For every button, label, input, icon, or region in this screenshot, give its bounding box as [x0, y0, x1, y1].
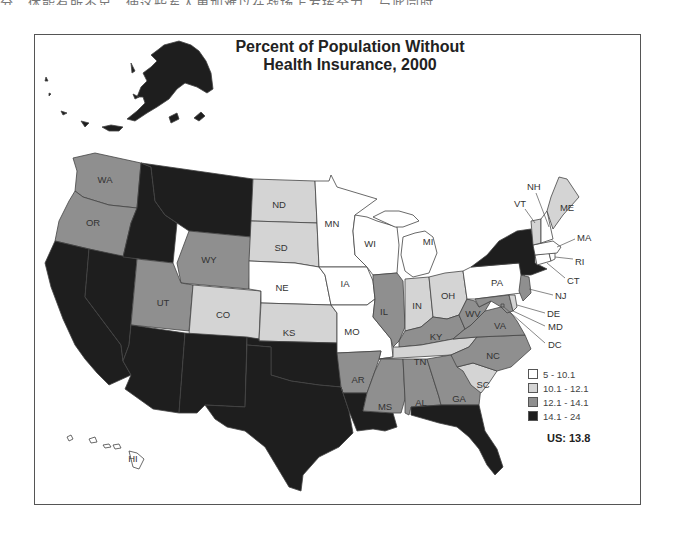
label-wa: WA [98, 174, 114, 185]
label-sc: SC [476, 379, 489, 390]
legend-swatch [528, 383, 538, 393]
label-ct: CT [567, 275, 580, 286]
legend-label: 12.1 - 14.1 [543, 397, 588, 408]
legend-label: 10.1 - 12.1 [543, 383, 588, 394]
legend-item: 10.1 - 12.1 [528, 381, 588, 395]
state-vt [531, 219, 541, 245]
legend-label: 5 - 10.1 [543, 369, 575, 380]
label-nj: NJ [555, 290, 567, 301]
state-ks [259, 303, 337, 343]
legend-item: 14.1 - 24 [528, 409, 588, 423]
label-me: ME [560, 202, 574, 213]
label-oh: OH [441, 290, 455, 301]
legend-swatch [528, 411, 538, 421]
label-sd: SD [274, 242, 287, 253]
label-nh: NH [527, 181, 541, 192]
label-ar: AR [351, 374, 364, 385]
state-nm [179, 333, 247, 413]
label-il: IL [380, 306, 388, 317]
label-ri: RI [575, 256, 585, 267]
us-total-value: US: 13.8 [547, 432, 590, 444]
state-hi: HI [67, 435, 144, 469]
label-ne: NE [275, 282, 288, 293]
label-de: DE [547, 308, 560, 319]
legend-item: 12.1 - 14.1 [528, 395, 588, 409]
label-hi: HI [128, 453, 138, 464]
label-mi: MI [423, 236, 434, 247]
label-mo: MO [344, 326, 359, 337]
label-in: IN [412, 300, 422, 311]
label-vt: VT [514, 198, 526, 209]
label-ga: GA [452, 393, 466, 404]
map-legend: 5 - 10.1 10.1 - 12.1 12.1 - 14.1 14.1 - … [528, 367, 588, 423]
label-tn: TN [414, 356, 427, 367]
legend-swatch [528, 369, 538, 379]
legend-item: 5 - 10.1 [528, 367, 588, 381]
label-wv: WV [465, 308, 481, 319]
legend-label: 14.1 - 24 [543, 411, 581, 422]
label-ut: UT [157, 297, 170, 308]
label-wy: WY [201, 254, 217, 265]
label-ks: KS [283, 327, 296, 338]
label-ky: KY [430, 331, 443, 342]
label-nd: ND [272, 199, 286, 210]
label-nc: NC [486, 350, 500, 361]
label-or: OR [86, 217, 100, 228]
clipped-text-fragment: 分、体能有所不足，使这些军人更加难以在战场上发挥全力。与此同时， [0, 0, 674, 5]
label-mn: MN [325, 218, 340, 229]
label-ma: MA [577, 232, 592, 243]
label-wi: WI [364, 238, 376, 249]
state-az [123, 325, 185, 413]
state-dc [501, 304, 504, 307]
label-co: CO [216, 309, 230, 320]
state-ak [45, 41, 213, 131]
state-ne [249, 261, 331, 305]
label-va: VA [494, 320, 507, 331]
state-fl [411, 405, 503, 475]
legend-swatch [528, 397, 538, 407]
label-ms: MS [378, 401, 392, 412]
state-nj [519, 275, 531, 301]
label-pa: PA [491, 277, 504, 288]
label-dc: DC [548, 339, 562, 350]
label-al: AL [415, 397, 427, 408]
label-ia: IA [341, 278, 351, 289]
label-md: MD [548, 321, 563, 332]
